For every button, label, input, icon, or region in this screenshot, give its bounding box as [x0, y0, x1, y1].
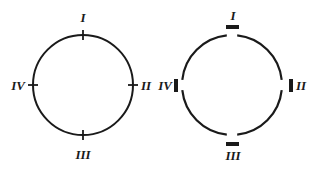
right-bar-left	[174, 79, 178, 92]
left-label-left: IV	[10, 78, 26, 93]
right-arc-top-right	[237, 35, 282, 80]
right-circle-group: I II III IV	[157, 8, 307, 163]
left-label-right: II	[140, 78, 152, 93]
left-circle-group: I II III IV	[10, 10, 152, 162]
right-bar-top	[226, 25, 239, 29]
left-label-top: I	[79, 10, 86, 25]
left-circle	[33, 35, 133, 135]
right-label-top: I	[229, 8, 236, 23]
right-arc-bottom-left	[182, 90, 227, 135]
left-label-bottom: III	[74, 147, 91, 162]
right-arc-top-left	[182, 35, 227, 80]
right-label-bottom: III	[224, 148, 241, 163]
right-label-right: II	[295, 78, 307, 93]
right-arc-bottom-right	[237, 90, 282, 135]
right-label-left: IV	[157, 78, 173, 93]
diagram-canvas: I II III IV I II III IV	[0, 0, 315, 170]
right-bar-right	[289, 79, 293, 92]
right-bar-bottom	[226, 142, 239, 146]
